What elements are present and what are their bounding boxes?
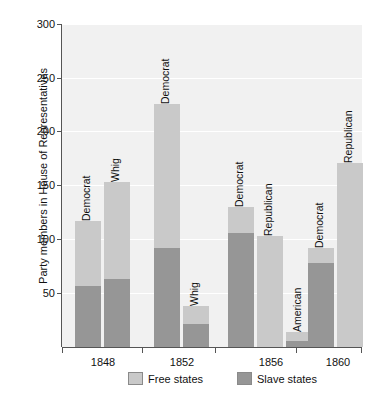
bar-label: American: [291, 288, 303, 332]
x-tick-mark: [296, 348, 297, 353]
x-group-label-1852: 1852: [170, 356, 194, 368]
bar-label: Whig: [188, 282, 200, 306]
plot-area: Democrat Whig Democrat Whig Democrat Rep…: [62, 24, 362, 347]
y-tick-label-200: 200: [37, 125, 55, 137]
y-tick-mark: [57, 24, 62, 25]
segment-free-states: [228, 207, 254, 233]
y-tick-label-100: 100: [37, 233, 55, 245]
bar-label: Republican: [342, 110, 354, 163]
bar-label: Democrat: [313, 202, 325, 248]
bar-label: Democrat: [159, 58, 171, 104]
bar-1848-whig: Whig: [104, 182, 130, 347]
gridline-300: [62, 24, 362, 25]
bar-1848-democrat: Democrat: [75, 221, 101, 347]
segment-slave-states: [104, 279, 130, 347]
segment-free-states: [337, 163, 363, 347]
legend-label: Free states: [148, 373, 203, 385]
y-tick-mark: [57, 131, 62, 132]
legend-label: Slave states: [257, 373, 317, 385]
segment-free-states: [257, 236, 283, 347]
segment-slave-states: [75, 286, 101, 347]
segment-slave-states: [154, 248, 180, 347]
legend-item-free-states: Free states: [128, 372, 203, 385]
y-tick-label-150: 150: [37, 179, 55, 191]
gridline-250: [62, 78, 362, 79]
y-tick-mark: [57, 78, 62, 79]
segment-free-states: [75, 221, 101, 286]
segment-free-states: [308, 248, 334, 263]
segment-slave-states: [228, 233, 254, 347]
bar-1860-republican: Republican: [337, 163, 363, 347]
y-tick-label-300: 300: [37, 18, 55, 30]
legend-swatch-icon: [237, 372, 252, 385]
x-tick-mark: [142, 348, 143, 353]
x-axis-line: [62, 347, 362, 348]
gridline-200: [62, 131, 362, 132]
legend-item-slave-states: Slave states: [237, 372, 317, 385]
x-tick-mark: [215, 348, 216, 353]
bar-label: Whig: [109, 158, 121, 182]
bar-label: Republican: [262, 183, 274, 236]
x-tick-mark: [62, 348, 63, 353]
segment-slave-states: [308, 263, 334, 347]
x-group-label-1856: 1856: [259, 356, 283, 368]
bar-label: Democrat: [233, 161, 245, 207]
segment-free-states: [104, 182, 130, 279]
x-group-label-1848: 1848: [91, 356, 115, 368]
bar-1856-democrat: Democrat: [228, 207, 254, 347]
y-tick-mark: [57, 185, 62, 186]
bar-1860-democrat: Democrat: [308, 248, 334, 347]
y-tick-mark: [57, 293, 62, 294]
bar-label: Democrat: [80, 175, 92, 221]
y-tick-label-50: 50: [43, 287, 55, 299]
bar-1852-whig: Whig: [183, 306, 209, 347]
segment-free-states: [154, 104, 180, 248]
x-tick-mark: [361, 348, 362, 353]
legend-swatch-icon: [128, 372, 143, 385]
bar-1856-republican: Republican: [257, 236, 283, 347]
bar-1852-democrat: Democrat: [154, 104, 180, 347]
segment-free-states: [183, 306, 209, 324]
bar-chart: Party members in House of Representative…: [0, 0, 386, 395]
y-tick-mark: [57, 239, 62, 240]
chart-legend: Free states Slave states: [128, 372, 317, 385]
x-group-label-1860: 1860: [326, 356, 350, 368]
segment-slave-states: [183, 324, 209, 347]
y-tick-label-250: 250: [37, 72, 55, 84]
